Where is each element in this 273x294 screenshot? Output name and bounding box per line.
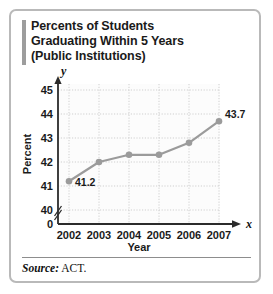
y-tick-0: 0 [47,218,53,230]
data-label-2002: 41.2 [75,176,96,188]
line-chart: 45 44 43 42 41 40 0 2002 2003 2004 2005 … [11,66,263,251]
y-tick-43: 43 [41,132,53,144]
chart-title-block: Percents of Students Graduating Within 5… [22,19,252,64]
data-label-2007: 43.7 [225,108,246,120]
title-accent-bar [22,20,26,65]
source-divider [22,257,251,258]
chart-title-line-2: Graduating Within 5 Years [31,34,252,49]
data-point-2003[interactable] [96,159,103,166]
data-point-2007[interactable] [216,118,223,125]
data-point-2004[interactable] [126,152,133,159]
x-tick-2004: 2004 [117,229,142,241]
data-point-2002[interactable] [66,178,73,185]
x-tick-2006: 2006 [177,229,201,241]
y-tick-42: 42 [41,156,53,168]
x-axis-arrow [232,220,241,228]
data-point-2006[interactable] [186,140,193,147]
figure-frame: Percents of Students Graduating Within 5… [9,9,261,283]
x-tick-2003: 2003 [87,229,111,241]
y-tick-45: 45 [41,84,53,96]
data-point-2005[interactable] [156,152,163,159]
y-tick-labels: 45 44 43 42 41 40 0 [41,84,54,230]
y-axis-variable: y [59,66,67,78]
x-axis-variable: x [245,217,252,231]
y-tick-41: 41 [41,180,53,192]
x-tick-labels: 2002 2003 2004 2005 2006 2007 [57,229,231,241]
source-note: Source: ACT. [22,262,86,274]
x-tick-2007: 2007 [207,229,231,241]
chart-svg: 45 44 43 42 41 40 0 2002 2003 2004 2005 … [11,66,263,251]
x-tick-2005: 2005 [147,229,171,241]
y-axis-title: Percent [21,133,33,174]
source-label: Source: [22,262,59,274]
chart-title-line-1: Percents of Students [31,19,252,34]
x-axis-title: Year [127,241,151,251]
source-value: ACT. [61,262,86,274]
y-tick-44: 44 [41,108,54,120]
y-tick-40: 40 [41,204,53,216]
chart-title-line-3: (Public Institutions) [31,49,252,64]
x-tick-2002: 2002 [57,229,81,241]
